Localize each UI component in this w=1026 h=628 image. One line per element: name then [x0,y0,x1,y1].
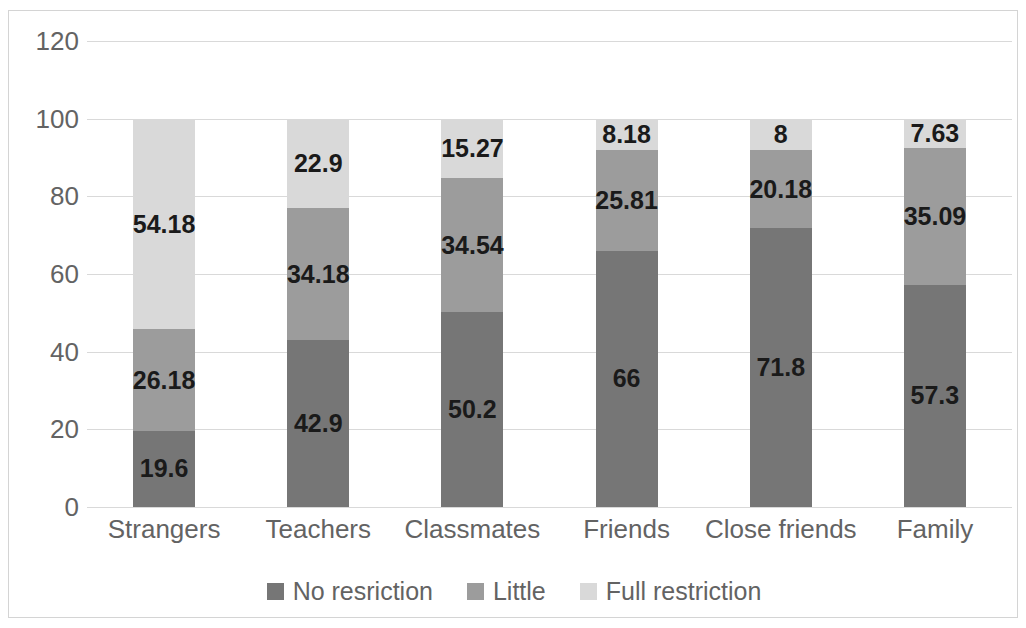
bar-segment-no-resriction[interactable]: 71.8 [750,228,812,507]
bar-stack: 71.820.188 [750,119,812,507]
gridline-100 [87,119,1012,120]
y-tick-label-20: 20 [17,416,79,442]
legend-swatch-icon [467,583,484,600]
x-tick-label-family: Family [897,515,974,544]
data-label: 54.18 [133,212,196,237]
bar-group-close-friends[interactable]: 71.820.188 [750,41,812,507]
stacked-bar-chart: 020406080100120 19.626.1854.1842.934.182… [0,0,1026,628]
y-tick-label-40: 40 [17,339,79,365]
bar-segment-little[interactable]: 35.09 [904,148,966,284]
data-label: 19.6 [140,456,189,481]
chart-legend: No resrictionLittleFull restriction [9,579,1019,604]
data-label: 35.09 [904,204,967,229]
bar-group-friends[interactable]: 6625.818.18 [596,41,658,507]
bar-stack: 19.626.1854.18 [133,119,195,507]
y-axis-tick-labels: 020406080100120 [17,41,79,507]
plot-area: 19.626.1854.1842.934.1822.950.234.5415.2… [87,41,1012,507]
legend-label: Full restriction [606,579,762,604]
bar-segment-full-restriction[interactable]: 8 [750,119,812,150]
data-label: 15.27 [441,136,504,161]
bar-segment-full-restriction[interactable]: 7.63 [904,119,966,149]
data-label: 66 [613,366,641,391]
data-label: 42.9 [294,411,343,436]
chart-frame: 020406080100120 19.626.1854.1842.934.182… [8,10,1018,618]
bar-stack: 6625.818.18 [596,119,658,507]
legend-item-no-resriction[interactable]: No resriction [267,579,433,604]
bar-segment-full-restriction[interactable]: 15.27 [441,119,503,178]
data-label: 34.18 [287,262,350,287]
bar-group-family[interactable]: 57.335.097.63 [904,41,966,507]
y-tick-label-60: 60 [17,261,79,287]
gridline-20 [87,429,1012,430]
legend-item-little[interactable]: Little [467,579,546,604]
gridline-80 [87,196,1012,197]
legend-swatch-icon [267,583,284,600]
data-label: 50.2 [448,397,497,422]
bar-segment-little[interactable]: 34.54 [441,178,503,312]
bar-segment-full-restriction[interactable]: 54.18 [133,119,195,329]
gridline-40 [87,352,1012,353]
bar-segment-little[interactable]: 34.18 [287,208,349,341]
legend-swatch-icon [580,583,597,600]
bar-segment-no-resriction[interactable]: 19.6 [133,431,195,507]
y-tick-label-80: 80 [17,183,79,209]
x-tick-label-strangers: Strangers [108,515,221,544]
data-label: 34.54 [441,233,504,258]
x-tick-label-friends: Friends [583,515,670,544]
y-tick-label-0: 0 [17,494,79,520]
bar-segment-no-resriction[interactable]: 50.2 [441,312,503,507]
bar-stack: 50.234.5415.27 [441,119,503,507]
bar-stack: 42.934.1822.9 [287,119,349,507]
bar-segment-no-resriction[interactable]: 57.3 [904,285,966,508]
gridline-60 [87,274,1012,275]
data-label: 7.63 [911,121,960,146]
bar-segment-little[interactable]: 20.18 [750,150,812,228]
data-label: 71.8 [756,355,805,380]
bar-segment-full-restriction[interactable]: 22.9 [287,119,349,208]
data-label: 20.18 [749,177,812,202]
data-label: 8.18 [602,122,651,147]
bar-segment-no-resriction[interactable]: 66 [596,251,658,507]
bar-segment-full-restriction[interactable]: 8.18 [596,119,658,151]
x-tick-label-classmates: Classmates [404,515,540,544]
bar-segment-little[interactable]: 26.18 [133,329,195,431]
bar-stack: 57.335.097.63 [904,119,966,507]
bar-group-strangers[interactable]: 19.626.1854.18 [133,41,195,507]
data-label: 57.3 [911,383,960,408]
x-tick-label-teachers: Teachers [266,515,372,544]
bar-segment-little[interactable]: 25.81 [596,150,658,250]
legend-label: Little [493,579,546,604]
data-label: 22.9 [294,151,343,176]
x-tick-label-close-friends: Close friends [705,515,857,544]
gridline-0 [87,507,1012,508]
y-tick-label-120: 120 [17,28,79,54]
bar-segment-no-resriction[interactable]: 42.9 [287,340,349,507]
x-axis-category-labels: StrangersTeachersClassmatesFriendsClose … [87,515,1012,555]
data-label: 25.81 [595,188,658,213]
y-tick-label-100: 100 [17,106,79,132]
data-label: 8 [774,122,788,147]
data-label: 26.18 [133,368,196,393]
legend-label: No resriction [293,579,433,604]
gridline-120 [87,41,1012,42]
bar-group-classmates[interactable]: 50.234.5415.27 [441,41,503,507]
bar-group-teachers[interactable]: 42.934.1822.9 [287,41,349,507]
legend-item-full-restriction[interactable]: Full restriction [580,579,762,604]
